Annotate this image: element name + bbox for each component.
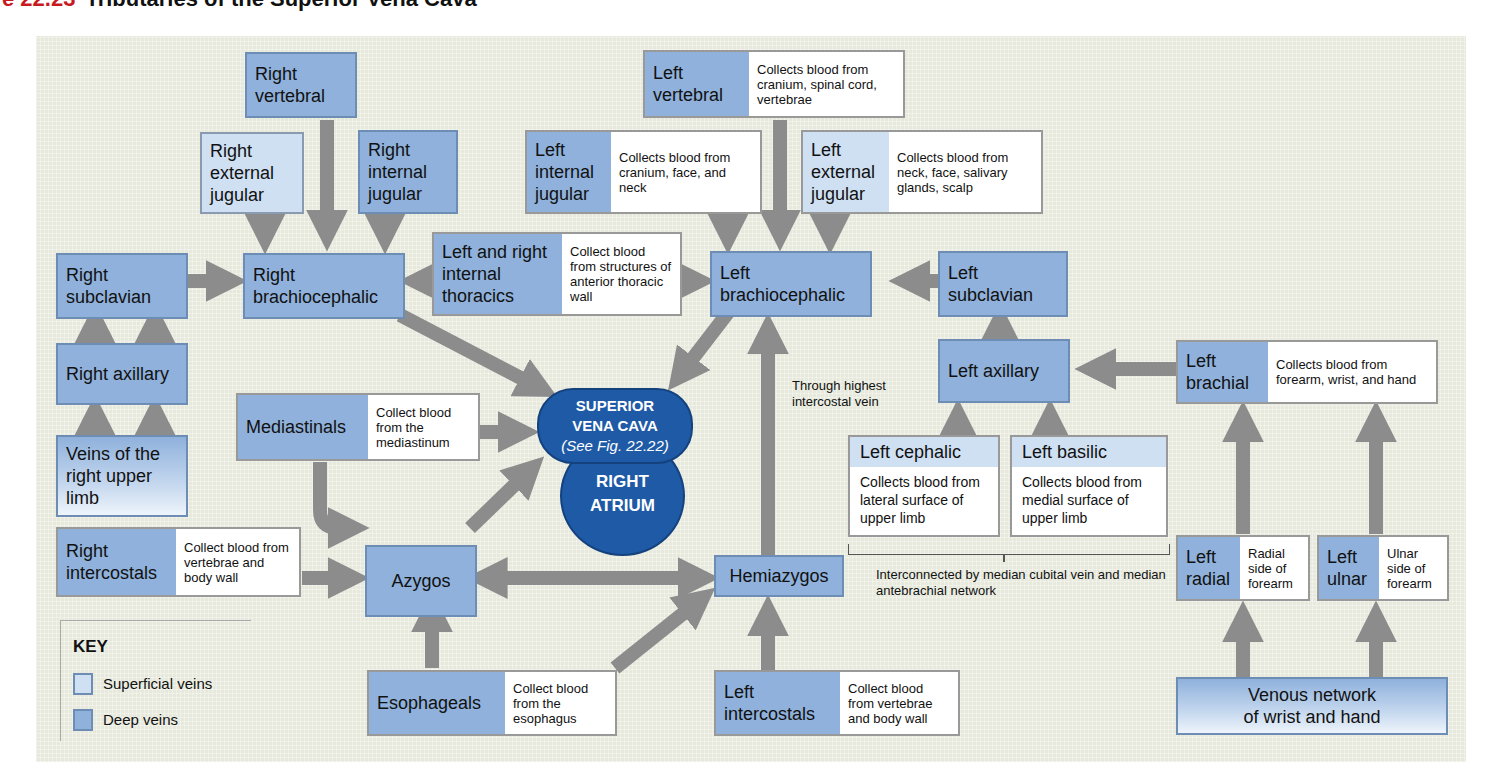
left-brachial-box: Left brachial Collects blood from forear… [1176,340,1438,404]
left-vertebral-box: Left vertebral Collects blood from crani… [643,50,905,118]
vein-name: Right axillary [58,345,186,403]
left-radial-box: Left radial Radial side of forearm [1176,535,1310,601]
vein-description: Collects blood from neck, face, salivary… [889,132,1041,212]
superior-vena-cava: SUPERIOR VENA CAVA (See Fig. 22.22) [537,388,693,464]
svc-figure-reference: (See Fig. 22.22) [539,436,691,456]
highest-intercostal-note: Through highest intercostal vein [792,378,912,410]
vein-name: Left vertebral [645,52,749,116]
right-subclavian-box: Right subclavian [56,253,188,319]
vein-description: Collects blood from medial surface of up… [1012,467,1166,535]
svc-line2: VENA CAVA [539,416,691,436]
vein-description: Collect blood from vertebrae and body wa… [840,672,958,734]
vein-description: Collects blood from cranium, face, and n… [611,132,760,212]
left-brachiocephalic-box: Left brachiocephalic [710,251,872,317]
vein-description: Collects blood from lateral surface of u… [850,467,998,535]
vein-name: Esophageals [369,672,505,734]
vein-name: Left internal jugular [527,132,611,212]
vein-description: Collect blood from the mediastinum [368,395,478,459]
vein-name: Left brachial [1178,342,1268,402]
svc-line1: SUPERIOR [539,396,691,416]
vein-name: Left cephalic [850,437,998,467]
deep-swatch [73,709,93,731]
superficial-swatch [73,673,93,695]
deep-label: Deep veins [103,711,178,728]
right-axillary-box: Right axillary [56,343,188,405]
vein-description: Ulnar side of forearm [1379,537,1447,599]
left-internal-jugular-box: Left internal jugular Collects blood fro… [525,130,762,214]
left-external-jugular-box: Left external jugular Collects blood fro… [801,130,1043,214]
left-basilic-box: Left basilic Collects blood from medial … [1010,435,1168,537]
left-subclavian-box: Left subclavian [938,251,1068,317]
vein-name: Right vertebral [247,54,355,116]
azygos-box: Azygos [365,545,477,617]
bracket-tick [1003,554,1005,562]
vein-name: Left radial [1178,537,1240,599]
right-internal-jugular-box: Right internal jugular [358,130,458,214]
vein-name: Left subclavian [940,253,1066,315]
vein-description: Collect blood from the esophagus [505,672,615,734]
interconnected-note: Interconnected by median cubital vein an… [876,567,1176,599]
vein-name: Left and right internal thoracics [434,234,562,314]
vein-name: Left brachiocephalic [712,253,870,315]
internal-thoracics-box: Left and right internal thoracics Collec… [432,232,682,316]
vein-description: Collects blood from cranium, spinal cord… [749,52,903,116]
vein-name: Azygos [367,547,475,615]
vein-name: Right external jugular [202,134,302,212]
left-axillary-box: Left axillary [938,339,1070,403]
vein-description: Collect blood from structures of anterio… [562,234,680,314]
cephalic-basilic-bracket [848,544,1170,555]
vein-name: Right subclavian [58,255,186,317]
vein-name: Right intercostals [58,529,176,595]
vein-name: Hemiazygos [716,557,842,595]
left-intercostals-box: Left intercostals Collect blood from ver… [714,670,960,736]
vein-name: Venous network of wrist and hand [1178,679,1446,733]
key-title: KEY [73,637,108,657]
vein-name: Veins of the right upper limb [58,437,186,515]
right-atrium-line2: ATRIUM [562,494,683,518]
left-ulnar-box: Left ulnar Ulnar side of forearm [1317,535,1449,601]
superficial-label: Superficial veins [103,675,212,692]
esophageals-box: Esophageals Collect blood from the esoph… [367,670,617,736]
vein-description: Radial side of forearm [1240,537,1308,599]
right-external-jugular-box: Right external jugular [200,132,304,214]
vein-name: Left basilic [1012,437,1166,467]
right-atrium-line1: RIGHT [562,470,683,494]
vein-name: Left axillary [940,341,1068,401]
vein-name: Mediastinals [238,395,368,459]
vein-name: Left external jugular [803,132,889,212]
venous-network-box: Venous network of wrist and hand [1176,677,1448,735]
vein-description: Collect blood from vertebrae and body wa… [176,529,299,595]
vein-name: Left ulnar [1319,537,1379,599]
vein-name: Right brachiocephalic [245,255,403,317]
right-vertebral-box: Right vertebral [245,52,357,118]
legend-key: KEY Superficial veins Deep veins [60,620,251,741]
vein-name: Left intercostals [716,672,840,734]
vein-name: Right internal jugular [360,132,456,212]
hemiazygos-box: Hemiazygos [714,555,844,597]
right-intercostals-box: Right intercostals Collect blood from ve… [56,527,301,597]
left-cephalic-box: Left cephalic Collects blood from latera… [848,435,1000,537]
right-brachiocephalic-box: Right brachiocephalic [243,253,405,319]
vein-description: Collects blood from forearm, wrist, and … [1268,342,1436,402]
veins-right-upper-limb-box: Veins of the right upper limb [56,435,188,517]
mediastinals-box: Mediastinals Collect blood from the medi… [236,393,480,461]
